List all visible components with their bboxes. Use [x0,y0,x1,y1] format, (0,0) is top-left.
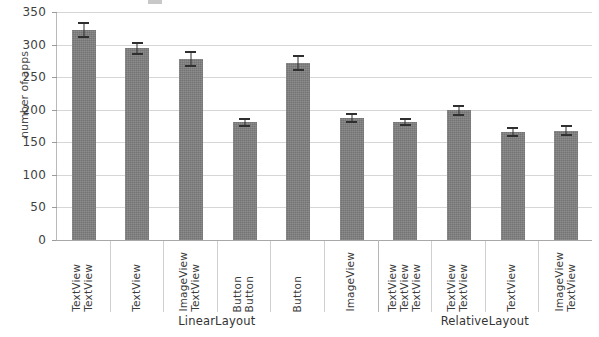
error-bar [512,127,513,137]
category-separator [270,241,271,312]
error-bar [351,113,352,123]
bar [554,131,578,240]
category-label-word: Button [244,274,255,312]
error-bar-cap-top [239,118,250,120]
category-label: ImageViewTextView [538,241,592,312]
error-bar-cap-bottom [132,53,143,55]
category-label-word: TextView [71,262,82,312]
category-label: ImageView [324,241,378,312]
bar-slot [432,12,486,240]
cropped-title-sliver [148,0,162,4]
category-label-word: TextView [446,262,457,312]
bar-slot [379,12,433,240]
group-label: RelativeLayout [441,314,529,328]
category-label-word: TextView [566,262,577,312]
error-bar-cap-top [400,118,411,120]
category-separator [217,241,218,312]
bar-slot [325,12,379,240]
category-label-word: TextView [131,262,142,312]
category-separator [538,241,539,312]
error-bar-cap-bottom [239,125,250,127]
bar-series [57,12,592,240]
y-axis-tick-labels: 050100150200250300350 [0,0,52,250]
error-bar-cap-bottom [78,36,89,38]
category-label: TextViewTextView [431,241,485,312]
category-label: TextView [110,241,164,312]
error-bar [566,125,567,137]
error-bar-cap-bottom [293,69,304,71]
category-label-word: TextView [83,262,94,312]
category-separator [163,241,164,312]
error-bar-cap-top [293,55,304,57]
bar [233,122,257,240]
category-label: Button [270,241,324,312]
error-bar-cap-top [507,127,518,129]
y-tick-label: 0 [38,233,46,247]
error-bar-cap-top [453,105,464,107]
group-label: LinearLayout [178,314,255,328]
error-bar [137,42,138,55]
category-axis: TextViewTextViewTextViewImageViewTextVie… [56,240,592,312]
bar [447,110,471,240]
error-bar-cap-bottom [185,65,196,67]
category-label-word: Button [292,274,303,312]
category-label: TextViewTextView [56,241,110,312]
category-label-word: ImageView [178,250,189,312]
bar [501,132,525,240]
error-bar-cap-bottom [453,114,464,116]
y-tick-label: 300 [22,38,46,52]
category-label-word: ImageView [345,250,356,312]
category-label-word: TextView [399,262,410,312]
category-label: TextViewTextViewTextView [378,241,432,312]
y-tick-label: 150 [22,135,46,149]
bar [179,59,203,240]
category-label: ImageViewTextView [163,241,217,312]
y-tick-label: 50 [30,200,46,214]
bar-slot [486,12,540,240]
plot-area [56,12,592,240]
bar-slot [164,12,218,240]
error-bar-cap-bottom [400,124,411,126]
category-label-word: ImageView [554,250,565,312]
category-separator [324,241,325,312]
category-separator [431,241,432,312]
bar [340,118,364,240]
error-bar [190,51,191,67]
error-bar [83,22,84,38]
y-tick-label: 100 [22,168,46,182]
error-bar [298,55,299,71]
group-separator [378,240,379,312]
bar [393,122,417,240]
bar [72,30,96,240]
error-bar-cap-top [78,22,89,24]
error-bar-cap-top [132,42,143,44]
category-separator [485,241,486,312]
bar-slot [57,12,111,240]
error-bar [458,105,459,117]
error-bar [244,118,245,127]
bar-slot [539,12,593,240]
category-label: ButtonButton [217,241,271,312]
category-label-word: TextView [458,262,469,312]
error-bar-cap-top [346,113,357,115]
bar-chart: number of apps 050100150200250300350 Tex… [0,0,599,337]
y-tick-label: 350 [22,5,46,19]
group-axis: LinearLayoutRelativeLayout [56,312,592,337]
category-label-word: Button [232,274,243,312]
bar [286,63,310,240]
bar [125,48,149,240]
category-label-word: TextView [190,262,201,312]
bar-slot [271,12,325,240]
category-label-word: TextView [387,262,398,312]
error-bar [405,118,406,126]
y-tick-label: 250 [22,70,46,84]
category-label-word: TextView [411,262,422,312]
bar-slot [111,12,165,240]
error-bar-cap-bottom [346,121,357,123]
error-bar-cap-bottom [561,134,572,136]
category-separator [110,241,111,312]
category-label-word: TextView [506,262,517,312]
error-bar-cap-top [561,125,572,127]
error-bar-cap-bottom [507,135,518,137]
y-tick-label: 200 [22,103,46,117]
